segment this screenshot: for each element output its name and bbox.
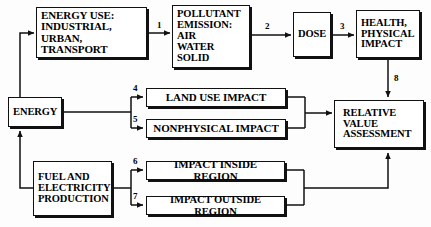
node-relative-value-assessment[interactable]: RELATIVE VALUE ASSESSMENT bbox=[334, 100, 424, 148]
node-impact-inside-region[interactable]: IMPACT INSIDE REGION bbox=[146, 161, 285, 180]
edge-fuel-to-energy bbox=[20, 131, 33, 188]
edge-energy-to-energy-use bbox=[20, 33, 34, 97]
node-pollutant-emission-label: POLLUTANT EMISSION: AIR WATER SOLID bbox=[173, 9, 249, 64]
node-land-use-impact[interactable]: LAND USE IMPACT bbox=[146, 88, 286, 107]
node-nonphysical-impact[interactable]: NONPHYSICAL IMPACT bbox=[146, 119, 286, 138]
node-energy[interactable]: ENERGY bbox=[8, 97, 62, 127]
diagram-canvas: ENERGY USE: INDUSTRIAL, URBAN, TRANSPORT… bbox=[0, 0, 431, 227]
node-impact-inside-region-label: IMPACT INSIDE REGION bbox=[147, 159, 284, 182]
edge-merge-to-rva-bottom bbox=[304, 153, 388, 188]
edge-number-1: 1 bbox=[157, 21, 162, 30]
node-energy-use[interactable]: ENERGY USE: INDUSTRIAL, URBAN, TRANSPORT bbox=[36, 7, 147, 58]
edge-number-7: 7 bbox=[133, 192, 138, 201]
node-health-physical-impact[interactable]: HEALTH, PHYSICAL IMPACT bbox=[356, 10, 420, 58]
node-health-physical-impact-label: HEALTH, PHYSICAL IMPACT bbox=[357, 18, 419, 51]
node-energy-use-label: ENERGY USE: INDUSTRIAL, URBAN, TRANSPORT bbox=[37, 10, 146, 56]
edge-number-4: 4 bbox=[133, 84, 138, 93]
node-dose-label: DOSE bbox=[294, 29, 330, 40]
edge-number-8: 8 bbox=[394, 74, 399, 83]
node-impact-outside-region-label: IMPACT OUTSIDE REGION bbox=[147, 194, 284, 216]
node-dose[interactable]: DOSE bbox=[293, 12, 331, 57]
edge-number-5: 5 bbox=[133, 115, 138, 124]
node-fuel-electricity-production[interactable]: FUEL AND ELECTRICITY PRODUCTION bbox=[33, 161, 112, 216]
edge-number-2: 2 bbox=[265, 22, 270, 31]
node-pollutant-emission[interactable]: POLLUTANT EMISSION: AIR WATER SOLID bbox=[172, 5, 250, 68]
node-fuel-electricity-production-label: FUEL AND ELECTRICITY PRODUCTION bbox=[34, 172, 114, 205]
edge-number-6: 6 bbox=[133, 157, 138, 166]
node-energy-label: ENERGY bbox=[9, 107, 61, 118]
edge-number-3: 3 bbox=[340, 22, 345, 31]
node-impact-outside-region[interactable]: IMPACT OUTSIDE REGION bbox=[146, 196, 285, 215]
node-land-use-impact-label: LAND USE IMPACT bbox=[147, 92, 285, 103]
node-nonphysical-impact-label: NONPHYSICAL IMPACT bbox=[147, 123, 285, 134]
node-relative-value-assessment-label: RELATIVE VALUE ASSESSMENT bbox=[335, 108, 423, 141]
